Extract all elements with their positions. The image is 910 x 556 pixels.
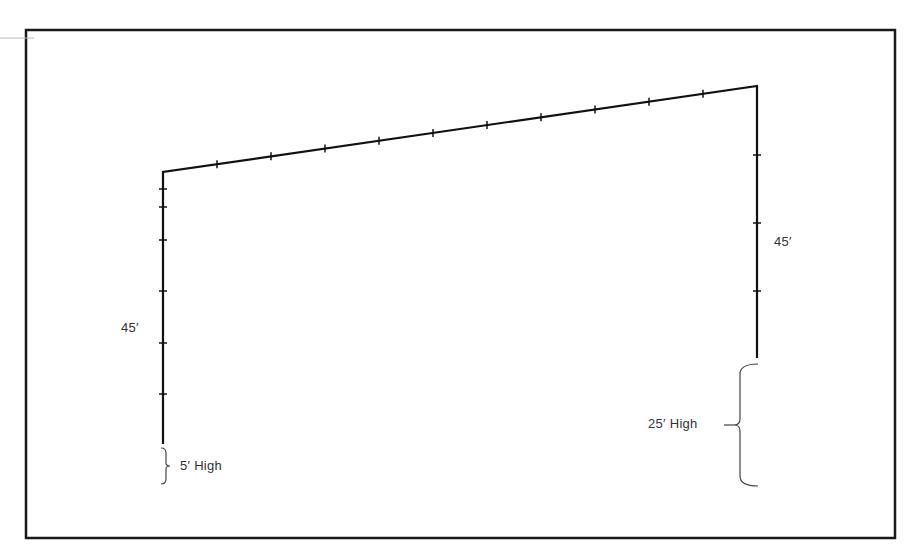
right-height-label: 25′ High	[648, 416, 698, 431]
right-length-label: 45′	[774, 234, 792, 249]
right-height-brace	[734, 364, 758, 486]
diagram-svg	[0, 0, 910, 556]
left-height-brace	[161, 448, 170, 484]
left-length-label: 45′	[121, 320, 139, 335]
outer-frame	[26, 30, 895, 538]
tick-marks	[159, 90, 761, 394]
fence-outline	[163, 86, 757, 444]
fence-line	[163, 86, 757, 444]
diagram-canvas: 45′ 45′ 5′ High 25′ High	[0, 0, 910, 556]
left-height-label: 5′ High	[180, 458, 222, 473]
